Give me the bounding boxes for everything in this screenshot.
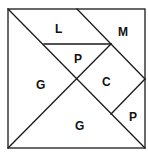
anti-diagonal [8, 44, 111, 148]
tangram-diagram: L M P G C G P [0, 0, 148, 159]
piece-label-m: M [118, 25, 128, 39]
piece-label-g-left: G [36, 78, 45, 92]
piece-label-c: C [102, 75, 111, 89]
piece-label-p-bottom: P [129, 110, 137, 124]
piece-label-l: L [55, 22, 62, 36]
square-lower-edge [111, 79, 145, 114]
piece-label-g-bottom: G [75, 119, 84, 133]
piece-label-p-top: P [74, 52, 82, 66]
